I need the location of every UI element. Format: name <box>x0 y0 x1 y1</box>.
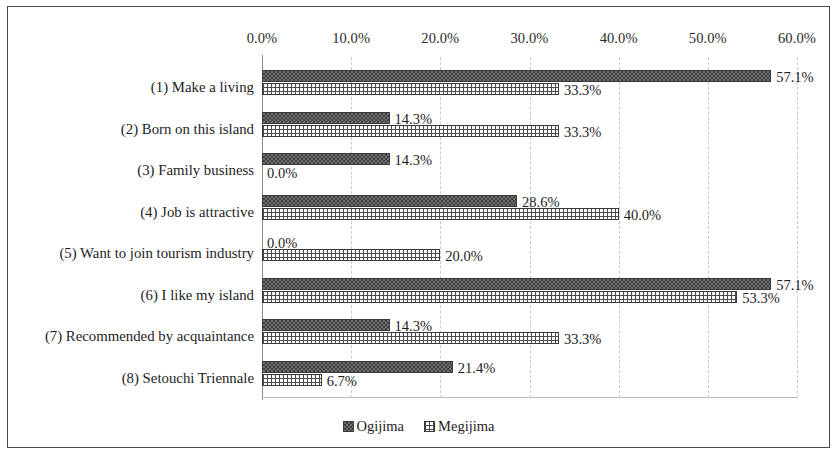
grid-line <box>440 57 441 398</box>
legend-label: Ogijima <box>357 418 405 435</box>
x-tick-label: 0.0% <box>247 30 278 47</box>
bar-value-label: 33.3% <box>564 125 601 140</box>
x-tick-label: 30.0% <box>511 30 549 47</box>
y-axis-line <box>262 55 263 400</box>
bar-megijima <box>262 208 619 220</box>
x-tick-label: 10.0% <box>332 30 370 47</box>
category-label: (3) Family business <box>137 163 254 178</box>
grid-line <box>797 57 798 398</box>
category-label: (5) Want to join tourism industry <box>59 246 254 261</box>
bar-value-label: 0.0% <box>267 166 297 181</box>
bar-megijima <box>262 374 322 386</box>
grid-line <box>351 57 352 398</box>
bar-ogijima <box>262 70 771 82</box>
bar-group: 14.3%0.0% <box>262 153 797 177</box>
bar-value-label: 33.3% <box>564 332 601 347</box>
bar-group: 14.3%33.3% <box>262 319 797 343</box>
bar-ogijima <box>262 361 453 373</box>
legend-item-megijima[interactable]: Megijima <box>424 418 494 435</box>
grid-line <box>708 57 709 398</box>
x-tick-label: 60.0% <box>778 30 816 47</box>
bar-ogijima <box>262 195 517 207</box>
x-tick-label: 40.0% <box>600 30 638 47</box>
x-axis-tick-labels: 0.0%10.0%20.0%30.0%40.0%50.0%60.0% <box>0 30 837 52</box>
category-label: (4) Job is attractive <box>140 205 254 220</box>
bar-group: 21.4%6.7% <box>262 361 797 385</box>
bar-value-label: 33.3% <box>564 83 601 98</box>
grid-line <box>530 57 531 398</box>
category-label: (7) Recommended by acquaintance <box>45 329 254 344</box>
bar-megijima <box>262 125 559 137</box>
bar-value-label: 57.1% <box>776 278 813 293</box>
category-label: (1) Make a living <box>151 80 254 95</box>
bar-ogijima <box>262 112 390 124</box>
bar-value-label: 6.7% <box>327 374 357 389</box>
bar-group: 0.0%20.0% <box>262 236 797 260</box>
bar-value-label: 21.4% <box>458 361 495 376</box>
bar-value-label: 57.1% <box>776 70 813 85</box>
grid-line <box>619 57 620 398</box>
category-label: (8) Setouchi Triennale <box>122 371 254 386</box>
x-tick-label: 50.0% <box>689 30 727 47</box>
category-label: (2) Born on this island <box>121 122 254 137</box>
bar-group: 57.1%53.3% <box>262 278 797 302</box>
bar-megijima <box>262 83 559 95</box>
chart-legend: OgijimaMegijima <box>0 418 837 435</box>
bar-megijima <box>262 332 559 344</box>
bar-megijima <box>262 249 440 261</box>
bar-value-label: 20.0% <box>445 249 482 264</box>
chart-figure: 0.0%10.0%20.0%30.0%40.0%50.0%60.0% 57.1%… <box>0 0 837 462</box>
bar-value-label: 53.3% <box>742 291 779 306</box>
bar-megijima <box>262 291 737 303</box>
legend-item-ogijima[interactable]: Ogijima <box>343 418 405 435</box>
bar-group: 57.1%33.3% <box>262 70 797 94</box>
bar-group: 14.3%33.3% <box>262 112 797 136</box>
legend-swatch-icon <box>424 421 435 432</box>
bar-value-label: 40.0% <box>624 208 661 223</box>
bar-group: 28.6%40.0% <box>262 195 797 219</box>
legend-swatch-icon <box>343 421 354 432</box>
plot-area: 57.1%33.3%14.3%33.3%14.3%0.0%28.6%40.0%0… <box>262 57 797 398</box>
bar-value-label: 14.3% <box>395 153 432 168</box>
bar-ogijima <box>262 319 390 331</box>
x-tick-label: 20.0% <box>421 30 459 47</box>
bar-ogijima <box>262 278 771 290</box>
bar-ogijima <box>262 153 390 165</box>
category-label: (6) I like my island <box>141 288 254 303</box>
legend-label: Megijima <box>438 418 494 435</box>
